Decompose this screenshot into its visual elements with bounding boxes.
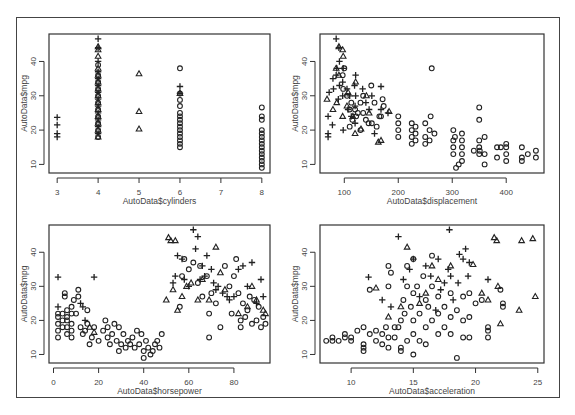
point-triangle (330, 107, 336, 112)
y-axis-label: AutoData$mpg (19, 265, 29, 322)
point-circle (56, 328, 61, 333)
point-circle (451, 128, 456, 133)
point-triangle (429, 263, 435, 268)
point-circle (467, 315, 472, 320)
point-circle (486, 335, 491, 340)
point-circle (482, 135, 487, 140)
point-triangle (263, 311, 269, 316)
point-circle (423, 298, 428, 303)
point-triangle (87, 324, 93, 329)
point-circle (519, 145, 524, 150)
point-circle (460, 152, 465, 157)
point-circle (349, 100, 354, 105)
y-tick-label: 40 (300, 247, 309, 256)
point-plus (240, 263, 246, 269)
y-tick-label: 20 (29, 315, 38, 324)
point-circle (347, 124, 352, 129)
point-circle (519, 159, 524, 164)
point-plus (456, 251, 462, 257)
y-axis-label: AutoData$mpg (290, 75, 300, 132)
point-circle (121, 332, 126, 337)
point-circle (85, 308, 90, 313)
point-circle (119, 342, 124, 347)
data-points (324, 227, 538, 361)
point-circle (101, 328, 106, 333)
point-plus (438, 287, 444, 293)
point-triangle (324, 96, 330, 101)
data-points (55, 227, 268, 361)
point-circle (209, 291, 214, 296)
point-triangle (479, 290, 485, 295)
point-circle (477, 148, 482, 153)
point-circle (501, 304, 506, 309)
y-tick-label: 30 (29, 91, 38, 100)
point-circle (200, 294, 205, 299)
point-circle (405, 263, 410, 268)
panel-bottom-left: 020406080AutoData$horsepower10203040Auto… (19, 225, 270, 396)
point-circle (398, 318, 403, 323)
point-circle (139, 332, 144, 337)
point-circle (413, 138, 418, 143)
point-triangle (95, 53, 101, 58)
point-triangle (172, 238, 178, 243)
point-circle (461, 318, 466, 323)
point-triangle (213, 244, 219, 249)
point-triangle (340, 53, 346, 58)
point-circle (461, 335, 466, 340)
point-triangle (386, 314, 392, 319)
point-circle (421, 274, 426, 279)
point-triangle (175, 307, 181, 312)
point-circle (69, 335, 74, 340)
point-circle (234, 257, 239, 262)
point-circle (460, 159, 465, 164)
point-circle (374, 338, 379, 343)
point-plus (455, 280, 461, 286)
point-circle (442, 304, 447, 309)
point-circle (411, 291, 416, 296)
x-tick-label: 7 (219, 188, 224, 197)
point-circle (222, 263, 227, 268)
point-circle (254, 318, 259, 323)
point-plus (208, 266, 214, 272)
point-circle (349, 338, 354, 343)
point-circle (178, 145, 183, 150)
point-plus (195, 233, 201, 239)
point-circle (336, 338, 341, 343)
point-triangle (516, 307, 522, 312)
point-plus (365, 274, 371, 280)
point-circle (430, 284, 435, 289)
point-plus (462, 246, 468, 252)
point-circle (372, 100, 377, 105)
point-plus (174, 252, 180, 258)
point-plus (447, 273, 453, 279)
point-plus (388, 304, 394, 310)
point-circle (426, 304, 431, 309)
point-plus (435, 256, 441, 262)
point-circle (71, 298, 76, 303)
point-plus (366, 106, 372, 112)
point-circle (460, 145, 465, 150)
point-circle (479, 298, 484, 303)
point-triangle (163, 297, 169, 302)
point-circle (324, 338, 329, 343)
point-circle (460, 138, 465, 143)
y-tick-label: 20 (300, 125, 309, 134)
y-tick-label: 20 (29, 125, 38, 134)
point-plus (359, 86, 365, 92)
point-circle (247, 294, 252, 299)
point-plus (55, 274, 61, 280)
point-circle (361, 325, 366, 330)
point-plus (485, 276, 491, 282)
x-tick-label: 10 (347, 378, 356, 387)
point-plus (330, 86, 336, 92)
point-plus (54, 114, 60, 120)
point-circle (467, 335, 472, 340)
x-tick-label: 25 (533, 378, 542, 387)
point-circle (423, 135, 428, 140)
point-circle (69, 304, 74, 309)
point-plus (379, 297, 385, 303)
y-tick-label: 10 (300, 159, 309, 168)
point-triangle (498, 321, 504, 326)
point-plus (181, 276, 187, 282)
point-circle (477, 105, 482, 110)
